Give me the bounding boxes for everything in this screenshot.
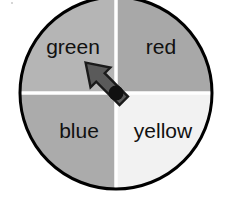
wedge-label-blue: blue — [59, 119, 99, 142]
wedge-label-red: red — [146, 35, 176, 58]
wedge-label-green: green — [46, 35, 100, 58]
spinner-pivot-dot — [109, 86, 124, 101]
wedge-label-yellow: yellow — [134, 119, 193, 142]
spinner-figure: green red blue yellow — [0, 0, 228, 204]
spinner-graphic: green red blue yellow — [0, 0, 228, 204]
